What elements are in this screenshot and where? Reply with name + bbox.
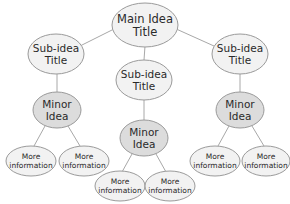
- minor-idea-node-left: Minor Idea: [33, 92, 81, 128]
- edge-minor1-detail1: [34, 126, 45, 146]
- detail-line2: information: [9, 161, 53, 170]
- detail-line1: More: [22, 152, 41, 161]
- sub-idea-line2: Title: [44, 54, 68, 66]
- minor-idea-node-center: Minor Idea: [120, 120, 168, 156]
- detail-line1: More: [75, 152, 94, 161]
- minor-idea-line1: Minor: [42, 98, 72, 110]
- main-idea-node: Main Idea Title: [112, 3, 178, 47]
- detail-line2: information: [62, 161, 106, 170]
- detail-node-4: More information: [145, 171, 195, 201]
- sub-idea-line2: Title: [228, 54, 252, 66]
- detail-line2: information: [98, 186, 142, 195]
- edge-minor3-detail5: [218, 126, 229, 146]
- detail-node-2: More information: [59, 146, 109, 176]
- minor-idea-line2: Idea: [229, 110, 252, 122]
- sub-idea-line2: Title: [132, 80, 156, 92]
- sub-idea-node-center: Sub-idea Title: [116, 60, 172, 100]
- minor-idea-line2: Idea: [133, 138, 156, 150]
- sub-idea-line1: Sub-idea: [121, 68, 167, 80]
- main-idea-line2: Title: [132, 25, 158, 39]
- edge-main-sub1: [80, 28, 116, 46]
- sub-idea-node-right: Sub-idea Title: [212, 34, 268, 74]
- sub-idea-line1: Sub-idea: [33, 42, 79, 54]
- detail-node-6: More information: [242, 146, 290, 176]
- edge-main-sub3: [174, 28, 214, 46]
- detail-line1: More: [111, 177, 130, 186]
- detail-line2: information: [244, 161, 288, 170]
- minor-idea-node-right: Minor Idea: [216, 92, 264, 128]
- detail-line1: More: [161, 177, 180, 186]
- detail-line2: information: [193, 161, 237, 170]
- concept-map: Main Idea Title Sub-idea Title Sub-idea …: [0, 0, 290, 204]
- minor-idea-line2: Idea: [46, 110, 69, 122]
- edge-minor2-detail3: [122, 154, 132, 172]
- main-idea-line1: Main Idea: [117, 12, 173, 26]
- sub-idea-node-left: Sub-idea Title: [28, 34, 84, 74]
- edge-minor1-detail2: [68, 126, 80, 146]
- detail-line1: More: [206, 152, 225, 161]
- minor-idea-line1: Minor: [225, 98, 255, 110]
- detail-node-3: More information: [95, 171, 145, 201]
- edge-minor2-detail4: [156, 154, 166, 172]
- sub-idea-line1: Sub-idea: [217, 42, 263, 54]
- detail-node-1: More information: [6, 146, 56, 176]
- detail-line2: information: [148, 186, 192, 195]
- edge-main-sub2: [144, 46, 145, 60]
- detail-node-5: More information: [190, 146, 240, 176]
- edge-minor3-detail6: [252, 126, 264, 146]
- minor-idea-line1: Minor: [129, 126, 159, 138]
- detail-line1: More: [257, 152, 276, 161]
